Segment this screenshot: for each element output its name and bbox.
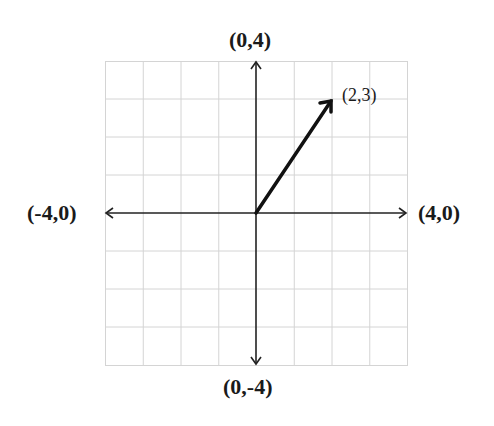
- vector-tip-label: (2,3): [342, 86, 377, 104]
- vector-arrow: [256, 101, 331, 213]
- label-right: (4,0): [418, 202, 460, 224]
- label-top: (0,4): [229, 29, 271, 51]
- label-left: (-4,0): [27, 202, 76, 224]
- label-bottom: (0,-4): [223, 376, 272, 398]
